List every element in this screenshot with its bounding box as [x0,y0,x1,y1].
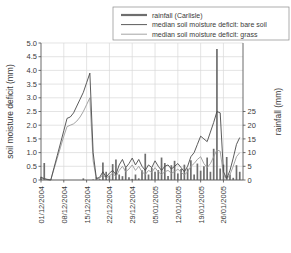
y-axis-left-tick-label: 0 [33,176,37,185]
x-axis-tick-label: 15/12/2004 [83,186,92,224]
y-axis-left-tick-label: 1.5 [27,135,37,144]
y-axis-right-tick-label: 5 [248,162,252,171]
soil-moisture-rainfall-chart: 00.51.01.52.02.53.03.54.04.55.0051015202… [0,0,291,253]
y-axis-left-tick-label: 1.0 [27,148,37,157]
y-axis-left-tick-label: 5.0 [27,39,37,48]
y-axis-left-tick-label: 4.5 [27,52,37,61]
y-axis-right-tick-label: 20 [248,121,256,130]
x-axis-tick-label: 08/12/2004 [60,186,69,224]
y-axis-left-tick-label: 0.5 [27,162,37,171]
x-axis-tick-label: 22/12/2004 [105,186,114,224]
y-axis-left-tick-label: 3.0 [27,93,37,102]
y-axis-right-tick-label: 0 [248,176,252,185]
y-axis-right-title: rainfall (mm) [273,88,283,135]
legend-label-1: rainfall (Carlisle) [152,12,203,20]
legend-label-3: median soil moisture deficit: grass [152,31,258,39]
chart-container: 00.51.01.52.02.53.03.54.04.55.0051015202… [0,0,291,253]
y-axis-left-tick-label: 3.5 [27,80,37,89]
y-axis-left-title: soil moisture deficit (mm) [5,64,15,159]
x-axis-tick-label: 26/01/2005 [219,186,228,224]
x-axis-tick-label: 05/01/2005 [151,186,160,224]
x-axis-tick-label: 01/12/2004 [37,186,46,224]
y-axis-left-tick-label: 2.5 [27,107,37,116]
x-axis-tick-label: 29/12/2004 [128,186,137,224]
y-axis-right-tick-label: 15 [248,135,256,144]
x-axis-tick-label: 12/01/2005 [174,186,183,224]
legend-label-2: median soil moisture deficit: bare soil [152,21,267,28]
y-axis-left-tick-label: 4.0 [27,66,37,75]
y-axis-right-tick-label: 25 [248,107,256,116]
x-axis-tick-label: 19/01/2005 [197,186,206,224]
y-axis-left-tick-label: 2.0 [27,121,37,130]
y-axis-right-tick-label: 10 [248,148,256,157]
